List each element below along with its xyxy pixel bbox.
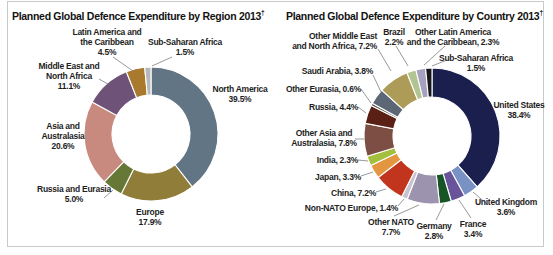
label-line: United States: [493, 100, 544, 110]
label-line: 3.6%: [475, 207, 537, 217]
label-line: Other Asia and: [291, 128, 357, 138]
label-line: Europe: [136, 207, 164, 217]
label-line: France: [460, 219, 486, 229]
label-china: China, 7.2%: [331, 188, 376, 198]
label-line: Saudi Arabia, 3.8%: [302, 66, 373, 76]
label-mena: Middle East andNorth Africa11.1%: [39, 61, 100, 91]
label-sub-saharan-africa: Sub-Saharan Africa1.5%: [148, 37, 222, 57]
label-asia-australasia: Asia andAustralasia20.6%: [41, 121, 84, 151]
label-line: Australasia: [41, 131, 84, 141]
segment-united-states: [432, 68, 500, 187]
label-line: Japan, 3.3%: [315, 172, 361, 182]
label-other-latam: Other Latin Americaand the Caribbean, 2.…: [407, 27, 500, 47]
label-latin-america: Latin America andthe Caribbean4.5%: [72, 27, 141, 57]
label-line: Other Middle East: [292, 31, 377, 41]
dagger-note-icon: †: [539, 9, 542, 16]
label-line: Other Latin America: [407, 27, 500, 37]
label-leader-line: [396, 46, 408, 66]
label-other-eurasia: Other Eurasia, 0.6%: [286, 84, 361, 94]
label-brazil: Brazil2.2%: [383, 27, 405, 47]
dagger-note-icon: †: [261, 9, 264, 16]
label-line: North Africa: [39, 71, 100, 81]
label-line: Other Eurasia, 0.6%: [286, 84, 361, 94]
label-line: 1.5%: [148, 47, 222, 57]
country-chart-title: Planned Global Defence Expenditure by Co…: [286, 9, 543, 22]
segment-north-america: [151, 67, 218, 187]
label-line: and North Africa, 7.2%: [292, 41, 377, 51]
label-line: Brazil: [383, 27, 405, 37]
label-saudi-arabia: Saudi Arabia, 3.8%: [302, 66, 373, 76]
label-germany: Germany2.8%: [416, 221, 451, 241]
label-leader-line: [152, 57, 172, 66]
label-line: United Kingdom: [475, 197, 537, 207]
label-other-asia: Other Asia andAustralasia, 7.8%: [291, 128, 357, 148]
label-line: Sub-Saharan Africa: [148, 37, 222, 47]
label-leader-line: [459, 200, 471, 218]
label-line: and the Caribbean, 2.3%: [407, 37, 500, 47]
label-line: the Caribbean: [72, 37, 141, 47]
region-chart-title: Planned Global Defence Expenditure by Re…: [12, 9, 264, 22]
label-line: 5.0%: [37, 194, 111, 204]
label-united-kingdom: United Kingdom3.6%: [475, 197, 537, 217]
label-line: 1.5%: [439, 63, 513, 73]
label-line: Russia, 4.4%: [309, 102, 358, 112]
label-line: 7.7%: [368, 227, 414, 237]
label-leader-line: [376, 189, 386, 192]
label-leader-line: [113, 57, 133, 71]
label-france: France3.4%: [460, 219, 486, 239]
label-leader-line: [99, 79, 108, 84]
label-line: Germany: [416, 221, 451, 231]
label-leader-line: [358, 107, 366, 113]
label-india: India, 2.3%: [317, 155, 358, 165]
label-russia-eurasia: Russia and Eurasia5.0%: [37, 184, 111, 204]
label-line: Non-NATO Europe, 1.4%: [305, 203, 398, 213]
label-line: Other NATO: [368, 217, 414, 227]
label-line: Russia and Eurasia: [37, 184, 111, 194]
label-leader-line: [373, 75, 381, 92]
label-line: Sub-Saharan Africa: [439, 53, 513, 63]
label-line: 11.1%: [39, 81, 100, 91]
label-leader-line: [358, 160, 368, 161]
label-line: 2.2%: [383, 37, 405, 47]
label-line: India, 2.3%: [317, 155, 358, 165]
label-line: 39.5%: [212, 94, 267, 104]
label-line: Australasia, 7.8%: [291, 138, 357, 148]
label-line: 17.9%: [136, 217, 164, 227]
label-other-nato: Other NATO7.7%: [368, 217, 414, 237]
label-line: 2.8%: [416, 231, 451, 241]
label-line: Middle East and: [39, 61, 100, 71]
label-line: 20.6%: [41, 141, 84, 151]
label-line: 38.4%: [493, 110, 544, 120]
label-line: Latin America and: [72, 27, 141, 37]
label-non-nato-europe: Non-NATO Europe, 1.4%: [305, 203, 398, 213]
country-chart-title-text: Planned Global Defence Expenditure by Co…: [286, 10, 539, 22]
label-leader-line: [436, 204, 444, 220]
label-russia: Russia, 4.4%: [309, 102, 358, 112]
label-line: 4.5%: [72, 47, 141, 57]
label-sub-saharan-africa-2: Sub-Saharan Africa1.5%: [439, 53, 513, 73]
label-leader-line: [361, 89, 371, 103]
label-line: 3.4%: [460, 229, 486, 239]
label-leader-line: [378, 49, 391, 71]
region-chart-title-text: Planned Global Defence Expenditure by Re…: [12, 10, 261, 22]
label-other-mena: Other Middle Eastand North Africa, 7.2%: [292, 31, 377, 51]
label-leader-line: [361, 172, 373, 176]
label-united-states: United States38.4%: [493, 100, 544, 120]
label-line: China, 7.2%: [331, 188, 376, 198]
label-line: Asia and: [41, 121, 84, 131]
label-japan: Japan, 3.3%: [315, 172, 361, 182]
label-north-america: North America39.5%: [212, 84, 267, 104]
label-leader-line: [398, 199, 404, 206]
label-line: North America: [212, 84, 267, 94]
label-europe: Europe17.9%: [136, 207, 164, 227]
infographic-canvas: Planned Global Defence Expenditure by Re…: [0, 0, 553, 255]
